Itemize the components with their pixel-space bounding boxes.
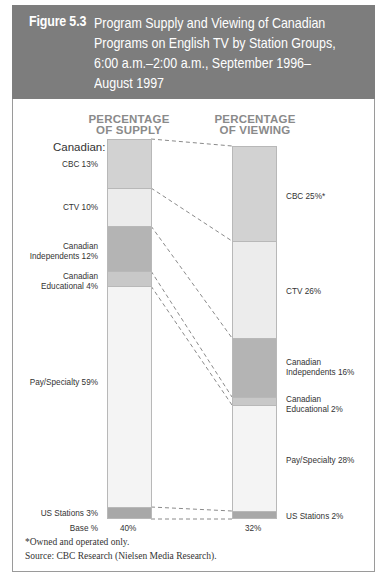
base-label: Base % (70, 524, 98, 534)
viewing-base-value: 32% (245, 524, 261, 534)
supply-label-independents: Canadian Independents 12% (30, 242, 98, 262)
viewing-label-us-stations: US Stations 2% (286, 512, 343, 522)
supply-label-educational: Canadian Educational 4% (41, 272, 98, 292)
viewing-segment-us-stations (232, 511, 277, 519)
viewing-label-educational: Canadian Educational 2% (286, 395, 343, 415)
supply-label-educational-line2: Educational 4% (41, 282, 98, 292)
viewing-segment-cbc (232, 146, 277, 242)
supply-segment-independents (107, 226, 152, 272)
viewing-segment-pay-specialty (232, 405, 277, 512)
supply-label-independents-line2: Independents 12% (30, 252, 98, 262)
supply-label-independents-line1: Canadian (30, 242, 98, 252)
viewing-label-ctv: CTV 26% (286, 287, 321, 297)
footnote: *Owned and operated only. (25, 536, 129, 548)
supply-label-us-stations: US Stations 3% (41, 509, 98, 519)
viewing-segment-independents (232, 338, 277, 398)
supply-label-ctv: CTV 10% (63, 203, 98, 213)
supply-segment-educational (107, 271, 152, 287)
supply-label-cbc: CBC 13% (62, 160, 98, 170)
supply-segment-us-stations (107, 507, 152, 519)
supply-label-educational-line1: Canadian (41, 272, 98, 282)
viewing-label-cbc: CBC 25%* (286, 192, 325, 202)
viewing-label-independents: Canadian Independents 16% (286, 358, 354, 378)
viewing-segment-ctv (232, 241, 277, 339)
supply-segment-pay-specialty (107, 286, 152, 508)
viewing-label-educational-line1: Canadian (286, 395, 343, 405)
supply-base-value: 40% (120, 524, 136, 534)
viewing-label-educational-line2: Educational 2% (286, 405, 343, 415)
viewing-label-independents-line1: Canadian (286, 358, 354, 368)
supply-segment-cbc (107, 139, 152, 189)
supply-segment-ctv (107, 188, 152, 227)
viewing-label-independents-line2: Independents 16% (286, 368, 354, 378)
supply-label-pay-specialty: Pay/Specialty 59% (30, 378, 98, 388)
viewing-label-pay-specialty: Pay/Specialty 28% (286, 456, 354, 466)
source-note: Source: CBC Research (Nielsen Media Rese… (25, 550, 217, 562)
